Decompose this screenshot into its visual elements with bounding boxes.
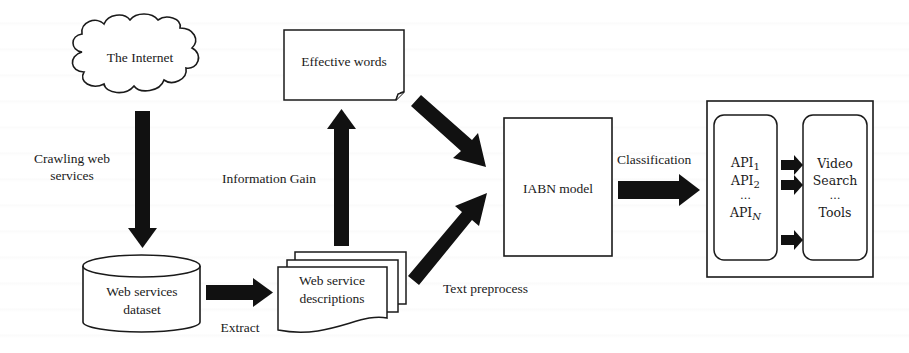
effective-words-label: Effective words (286, 54, 402, 70)
crawl-label-line2: services (26, 168, 118, 184)
classification-arrow (618, 174, 700, 206)
extract-arrow (206, 278, 273, 307)
classification-label: Classification (617, 152, 691, 168)
category-item-video: Video (803, 156, 867, 172)
category-item-ellipsis: … (803, 188, 867, 204)
crawl-arrow (128, 111, 157, 248)
dataset-label-line2: dataset (90, 302, 194, 318)
internet-label: The Internet (96, 50, 184, 66)
iabn-label: IABN model (504, 181, 612, 197)
preprocess-label: Text preprocess (443, 281, 528, 297)
crawl-label-line1: Crawling web (26, 151, 118, 167)
info-gain-arrow (327, 109, 356, 246)
preprocess-arrow (408, 193, 487, 285)
dataset-label-line1: Web services (90, 284, 194, 300)
descriptions-label-line1: Web service (280, 273, 384, 289)
extract-label: Extract (212, 320, 268, 336)
api-item-n: APIN (714, 205, 777, 225)
info-gain-label: Information Gain (222, 171, 316, 187)
category-item-tools: Tools (803, 205, 867, 221)
category-item-search: Search (803, 173, 867, 189)
api-item-1: API1 (714, 155, 777, 175)
words-to-model-arrow (411, 95, 486, 167)
descriptions-label-line2: descriptions (280, 291, 384, 307)
api-item-ellipsis: … (714, 188, 777, 204)
